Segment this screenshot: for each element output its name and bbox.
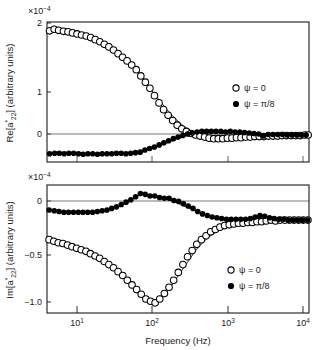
data-point <box>66 210 72 216</box>
legend-marker-open-circle-lower <box>228 267 234 273</box>
data-point <box>99 208 105 214</box>
data-point <box>246 130 252 136</box>
data-point <box>123 199 129 205</box>
data-point <box>176 199 182 205</box>
y-tick-label-upper-2: 2 <box>37 18 42 28</box>
data-point <box>152 193 158 199</box>
multiplier-exponent-lower: −4 <box>43 171 51 178</box>
data-point <box>224 217 230 223</box>
data-point <box>114 150 120 156</box>
y-tick-label-upper-0: 0 <box>37 129 42 139</box>
data-point <box>267 215 273 221</box>
data-point <box>142 79 149 86</box>
data-point <box>171 198 177 204</box>
multiplier-exponent-upper: −4 <box>43 5 51 12</box>
data-point <box>190 206 196 212</box>
data-point <box>242 130 248 136</box>
data-point <box>218 129 224 135</box>
y-label-suffix-upper: ] (arbitrary units) <box>4 44 15 113</box>
data-point <box>85 151 91 157</box>
data-point <box>189 247 196 254</box>
data-point <box>85 210 91 216</box>
data-point <box>303 132 309 138</box>
legend-label-psi0-upper: ψ = 0 <box>244 83 266 93</box>
data-point <box>175 269 182 276</box>
legend-marker-filled-circle-lower <box>228 283 234 289</box>
data-point <box>142 192 148 198</box>
data-point <box>276 217 282 223</box>
legend-label-psipi8-lower: ψ = π/8 <box>239 281 269 291</box>
data-point <box>160 106 167 113</box>
data-point <box>47 151 53 157</box>
x-tick-mantissa-0: 10 <box>70 318 80 328</box>
data-point <box>180 261 187 268</box>
data-point <box>175 134 181 140</box>
data-point <box>147 146 153 152</box>
data-point <box>109 151 115 157</box>
data-point <box>123 151 129 157</box>
data-point <box>156 100 163 107</box>
data-point <box>138 191 144 197</box>
data-point <box>80 151 86 157</box>
data-point <box>181 201 187 207</box>
data-point <box>128 150 134 156</box>
x-tick-mantissa-1: 10 <box>145 318 155 328</box>
x-tick-exponent-3: 4 <box>306 317 310 324</box>
data-point <box>95 209 101 215</box>
data-point <box>170 277 177 284</box>
data-point <box>243 217 249 223</box>
data-point <box>271 216 277 222</box>
x-tick-mantissa-2: 10 <box>221 318 231 328</box>
data-point <box>214 215 220 221</box>
data-point <box>147 85 154 92</box>
multiplier-base-lower: ×10 <box>28 172 43 182</box>
data-point <box>90 210 96 216</box>
data-point <box>305 217 311 223</box>
data-point <box>104 207 110 213</box>
data-point <box>161 290 168 297</box>
data-point <box>119 202 125 208</box>
data-point <box>223 129 229 135</box>
data-point <box>286 217 292 223</box>
y-label-suffix-lower: ] (arbitrary units) <box>4 201 15 270</box>
y-label-prefix-upper: Re[a <box>4 122 15 143</box>
data-point <box>151 92 158 99</box>
data-point <box>233 217 239 223</box>
x-tick-mantissa-3: 10 <box>296 318 306 328</box>
x-axis-label: Frequency (Hz) <box>145 335 210 346</box>
y-tick-label-lower-0: 0 <box>37 196 42 206</box>
data-point <box>227 129 233 135</box>
data-point <box>90 151 96 157</box>
data-point <box>300 217 306 223</box>
data-point <box>133 66 140 73</box>
figure-container: ×10−4 Re[a*22] (arbitrary units) 2 1 0 <box>0 0 319 350</box>
data-point <box>142 147 148 153</box>
data-point <box>114 204 120 210</box>
data-point <box>71 150 77 156</box>
legend-marker-open-circle-upper <box>233 85 239 91</box>
data-point <box>99 151 105 157</box>
y-tick-label-lower-1: −0.5 <box>24 250 42 260</box>
data-point <box>71 210 77 216</box>
data-point <box>185 203 191 209</box>
data-point <box>257 213 263 219</box>
data-point <box>118 150 124 156</box>
x-tick-exponent-1: 2 <box>155 317 159 324</box>
x-tick-exponent-0: 1 <box>80 317 84 324</box>
data-point <box>205 213 211 219</box>
data-point <box>262 213 268 219</box>
data-point <box>133 150 139 156</box>
data-point <box>51 208 57 214</box>
data-point <box>162 195 168 201</box>
data-point <box>128 197 134 203</box>
data-point <box>157 195 163 201</box>
dielectric-response-figure: ×10−4 Re[a*22] (arbitrary units) 2 1 0 <box>0 0 319 350</box>
data-point <box>66 150 72 156</box>
data-point <box>138 73 145 80</box>
data-point <box>295 217 301 223</box>
data-point <box>180 133 186 139</box>
legend-label-psi0-lower: ψ = 0 <box>239 265 261 275</box>
y-tick-label-upper-1: 1 <box>37 87 42 97</box>
data-point <box>133 194 139 200</box>
multiplier-base-upper: ×10 <box>28 6 43 16</box>
